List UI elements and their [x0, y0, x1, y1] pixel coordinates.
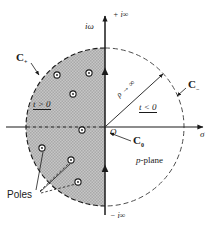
contour-c-plus-label: C+	[16, 52, 27, 65]
imaginary-bottom-label: − i∞	[110, 212, 125, 220]
c-zero-letter: C	[133, 134, 141, 146]
contour-c-minus-label: C−	[188, 79, 199, 92]
pole-center-dot	[88, 72, 90, 74]
origin-label: O	[110, 128, 117, 137]
pole-center-dot	[70, 159, 72, 161]
pole-center-dot	[81, 129, 83, 131]
real-axis-label: σ	[200, 130, 204, 139]
figure-canvas	[0, 0, 220, 229]
poles-label: Poles	[7, 190, 32, 200]
region-label-t-positive: t > 0	[33, 100, 51, 110]
imaginary-top-label: + i∞	[113, 11, 128, 19]
c-minus-subscript: −	[196, 86, 199, 92]
c-plus-letter: C	[16, 51, 24, 63]
c-plus-subscript: +	[24, 59, 27, 65]
c-plus-leader	[31, 63, 39, 75]
c-minus-leader	[177, 88, 186, 96]
pole-center-dot	[77, 181, 79, 183]
p-plane-contour-figure: iω + i∞ − i∞ σ C+ C− C0 t > 0 t < 0 ρ → …	[0, 0, 220, 229]
pole-center-dot	[41, 147, 43, 149]
c-zero-subscript: 0	[141, 142, 144, 148]
imaginary-axis-label: iω	[85, 22, 94, 31]
contour-c-zero-label: C0	[133, 135, 144, 148]
pole-center-dot	[56, 74, 58, 76]
plane-label-text: -plane	[141, 155, 164, 165]
c-minus-letter: C	[188, 78, 196, 90]
plane-label: p-plane	[136, 156, 163, 165]
pole-center-dot	[72, 93, 74, 95]
region-label-t-negative: t < 0	[139, 103, 157, 113]
